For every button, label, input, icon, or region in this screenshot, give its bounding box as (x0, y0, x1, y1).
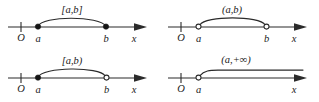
panel-half-open-interval: [a,b) O a b x (0, 51, 159, 102)
origin-label: O (17, 32, 25, 43)
endpoint-dot-left (196, 75, 201, 80)
interval-arc (38, 69, 105, 77)
interval-arc (38, 18, 106, 26)
interval-notation-figure: [a,b] O a b x (a,b) O a b x (0, 0, 319, 102)
origin-label: O (177, 83, 185, 94)
left-endpoint-label: a (35, 33, 40, 44)
endpoint-dot-left (196, 24, 201, 29)
right-endpoint-label: b (264, 33, 269, 44)
origin-label: O (177, 32, 185, 43)
interval-label: (a,b) (222, 4, 243, 16)
panel-infinite-interval: (a,+∞) O a x (160, 51, 319, 102)
right-endpoint-label: b (104, 84, 109, 95)
panel-closed-interval: [a,b] O a b x (0, 0, 159, 51)
left-endpoint-label: a (196, 84, 201, 95)
axis-arrowhead-icon (134, 74, 147, 82)
endpoint-dot-right (103, 24, 108, 29)
right-endpoint-label: b (103, 33, 108, 44)
origin-label: O (17, 83, 25, 94)
endpoint-dot-right (104, 75, 109, 80)
axis-variable-label: x (291, 84, 297, 95)
endpoint-dot-right (264, 24, 269, 29)
interval-ray (200, 70, 303, 76)
axis-variable-label: x (131, 84, 137, 95)
axis-arrowhead-icon (294, 23, 307, 31)
panel-open-interval: (a,b) O a b x (160, 0, 319, 51)
endpoint-dot-left (35, 75, 40, 80)
interval-arc (200, 18, 265, 25)
left-endpoint-label: a (196, 33, 201, 44)
axis-variable-label: x (291, 33, 297, 44)
interval-label: (a,+∞) (221, 54, 251, 66)
interval-label: [a,b) (62, 55, 83, 67)
endpoint-dot-left (35, 24, 40, 29)
axis-arrowhead-icon (134, 23, 147, 31)
interval-label: [a,b] (61, 4, 82, 15)
axis-arrowhead-icon (294, 74, 307, 82)
left-endpoint-label: a (35, 84, 40, 95)
axis-variable-label: x (131, 33, 137, 44)
